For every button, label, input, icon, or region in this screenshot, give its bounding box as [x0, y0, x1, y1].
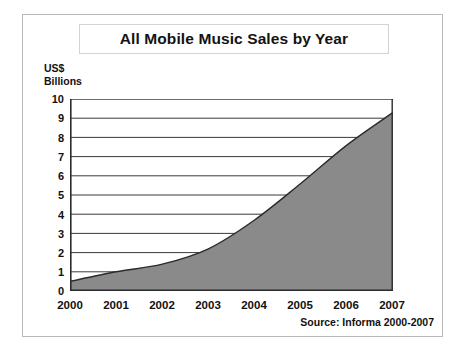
y-axis-unit-caption: US$ Billions [44, 62, 82, 88]
x-tick-label-2000: 2000 [47, 299, 93, 311]
y-tick-label-6: 6 [42, 171, 64, 182]
x-tick-label-2006: 2006 [323, 299, 369, 311]
y-tick-label-9: 9 [42, 113, 64, 124]
y-tick-label-5: 5 [42, 190, 64, 201]
area-chart-svg [70, 99, 393, 291]
y-tick-label-10: 10 [42, 94, 64, 105]
x-tick-label-2005: 2005 [277, 299, 323, 311]
y-axis-unit-line-1: US$ [44, 62, 82, 75]
area-series-fill [70, 112, 393, 291]
x-tick-label-2001: 2001 [93, 299, 139, 311]
chart-title: All Mobile Music Sales by Year [120, 30, 348, 48]
y-axis-unit-line-2: Billions [44, 75, 82, 88]
source-note: Source: Informa 2000-2007 [300, 316, 434, 328]
y-tick-label-3: 3 [42, 229, 64, 240]
y-tick-label-1: 1 [42, 267, 64, 278]
x-tick-label-2002: 2002 [139, 299, 185, 311]
chart-title-box: All Mobile Music Sales by Year [79, 24, 389, 54]
x-tick-label-2004: 2004 [231, 299, 277, 311]
y-tick-label-0: 0 [42, 286, 64, 297]
y-tick-label-7: 7 [42, 152, 64, 163]
plot-area [70, 99, 393, 291]
x-tick-label-2003: 2003 [185, 299, 231, 311]
y-tick-label-4: 4 [42, 210, 64, 221]
chart-figure: All Mobile Music Sales by Year US$ Billi… [0, 0, 466, 354]
x-tick-label-2007: 2007 [369, 299, 415, 311]
y-tick-label-2: 2 [42, 248, 64, 259]
y-tick-label-8: 8 [42, 133, 64, 144]
